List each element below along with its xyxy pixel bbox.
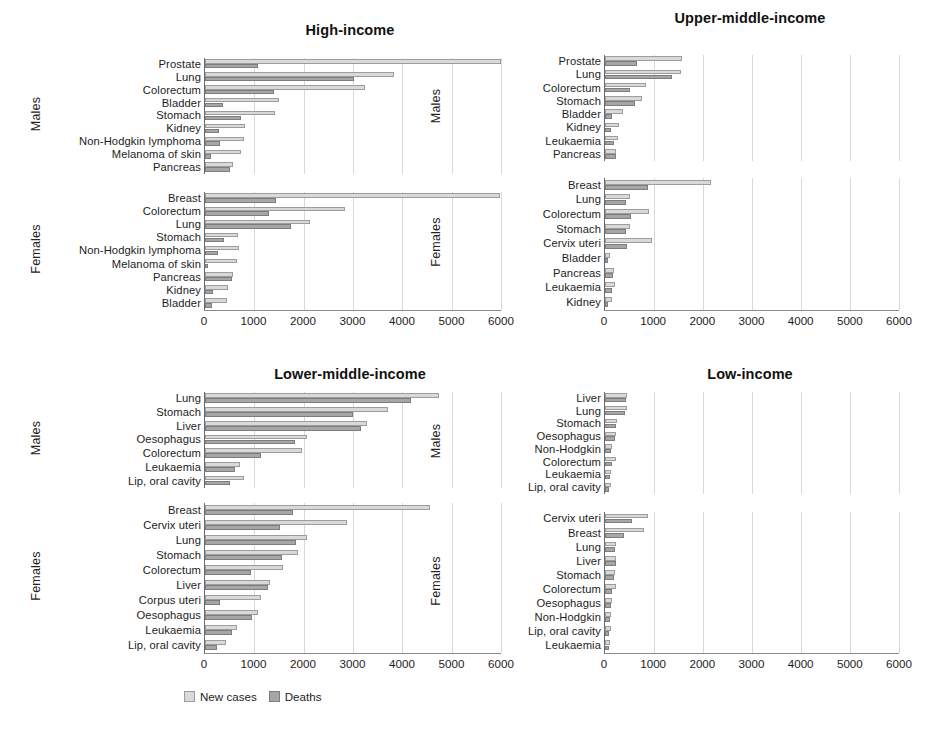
plot-area-males: LiverLungStomachOesophagusNon-HodgkinCol… [604, 392, 899, 494]
cancer-incidence-mortality-figure: High-incomeProstateLungColorectumBladder… [0, 0, 940, 733]
bar-row: Lung [605, 68, 899, 81]
bar-new-cases [205, 565, 283, 570]
bar-row: Colorectum [205, 205, 501, 218]
bar-row: Lung [605, 405, 899, 418]
category-label: Pancreas [553, 268, 601, 279]
bar-new-cases [205, 435, 307, 440]
axis-label-females: Females [429, 212, 443, 272]
bar-new-cases [605, 224, 630, 229]
bar-row: Kidney [605, 295, 899, 310]
category-label: Lung [176, 535, 201, 546]
bar-deaths [605, 519, 632, 524]
bar-row: Oesophagus [205, 433, 501, 447]
x-axis-tick: 5000 [439, 657, 465, 670]
bar-row: Bladder [605, 251, 899, 266]
plot-area-males: ProstateLungColorectumBladderStomachKidn… [204, 58, 501, 174]
bar-row: Cervix uteri [605, 512, 899, 526]
bar-new-cases [605, 457, 616, 461]
x-axis-tick: 6000 [886, 314, 912, 327]
bar-deaths [605, 200, 626, 205]
grid-line [353, 58, 354, 174]
category-label: Cervix uteri [143, 520, 201, 531]
bar-new-cases [205, 505, 430, 510]
bar-row: Leukaemia [605, 135, 899, 148]
grid-line [703, 178, 704, 310]
bar-deaths [605, 229, 626, 234]
axis-label-males: Males [29, 408, 43, 468]
category-label: Cervix uteri [543, 238, 601, 249]
bar-deaths [605, 258, 608, 263]
x-axis-tick: 3000 [739, 314, 765, 327]
panel-title: Low-income [600, 366, 900, 382]
bar-row: Pancreas [605, 148, 899, 161]
bar-row: Colorectum [205, 563, 501, 578]
grid-line [801, 55, 802, 161]
bar-deaths [605, 244, 627, 249]
bar-deaths [205, 211, 269, 215]
bar-deaths [605, 561, 616, 566]
bar-new-cases [605, 444, 612, 448]
bar-row: Colorectum [605, 82, 899, 95]
bar-row: Pancreas [205, 271, 501, 284]
x-axis-tick: 6000 [886, 657, 912, 670]
bar-new-cases [605, 238, 652, 243]
bar-deaths [205, 64, 258, 68]
bar-row: Kidney [205, 122, 501, 135]
grid-line [654, 392, 655, 494]
plot-area-females: BreastColorectumLungStomachNon-Hodgkin l… [204, 192, 501, 310]
category-label: Melanoma of skin [112, 149, 201, 160]
bar-row: Leukaemia [205, 623, 501, 638]
legend-item-cases: New cases [184, 690, 257, 703]
bar-row: Kidney [205, 284, 501, 297]
grid-line [850, 512, 851, 653]
bar-deaths [205, 630, 232, 635]
category-label: Stomach [156, 232, 201, 243]
bar-new-cases [605, 584, 616, 589]
category-label: Lip, oral cavity [128, 640, 201, 651]
bar-deaths [205, 224, 291, 228]
x-axis-tick: 2000 [290, 657, 316, 670]
category-label: Colorectum [543, 83, 601, 94]
category-label: Kidney [166, 285, 201, 296]
bar-row: Non-Hodgkin lymphoma [205, 244, 501, 257]
bar-new-cases [205, 233, 238, 237]
x-axis-line [604, 653, 899, 654]
bar-deaths [205, 251, 218, 255]
bar-new-cases [205, 580, 270, 585]
bar-row: Non-Hodgkin [605, 611, 899, 625]
bar-row: Lung [605, 193, 899, 208]
bar-row: Liver [205, 419, 501, 433]
bar-new-cases [205, 610, 258, 615]
bar-row: Lip, oral cavity [205, 638, 501, 653]
category-label: Oesophagus [137, 434, 201, 445]
bar-new-cases [205, 193, 500, 197]
bar-row: Cervix uteri [605, 237, 899, 252]
bar-new-cases [605, 406, 627, 410]
bar-deaths [605, 436, 615, 440]
bar-row: Non-Hodgkin lymphoma [205, 135, 501, 148]
x-axis-tick: 6000 [488, 314, 514, 327]
grid-line [654, 55, 655, 161]
grid-line [254, 192, 255, 310]
legend-swatch-cases-icon [184, 691, 195, 702]
category-label: Liver [176, 421, 201, 432]
panel-title: Upper-middle-income [600, 10, 900, 26]
category-label: Bladder [562, 253, 601, 264]
legend-label: New cases [200, 690, 257, 703]
bar-deaths [205, 103, 223, 107]
bar-row: Breast [605, 178, 899, 193]
bar-new-cases [605, 432, 616, 436]
grid-line [752, 512, 753, 653]
bar-new-cases [605, 149, 616, 154]
grid-line [353, 392, 354, 488]
category-label: Bladder [162, 298, 201, 309]
bar-deaths [205, 398, 411, 403]
category-label: Bladder [162, 98, 201, 109]
grid-line [501, 503, 502, 653]
bar-deaths [205, 585, 268, 590]
x-axis-tick: 2000 [290, 314, 316, 327]
bar-new-cases [605, 483, 611, 487]
bar-row: Kidney [605, 121, 899, 134]
bar-deaths [205, 453, 261, 458]
bar-deaths [205, 129, 219, 133]
